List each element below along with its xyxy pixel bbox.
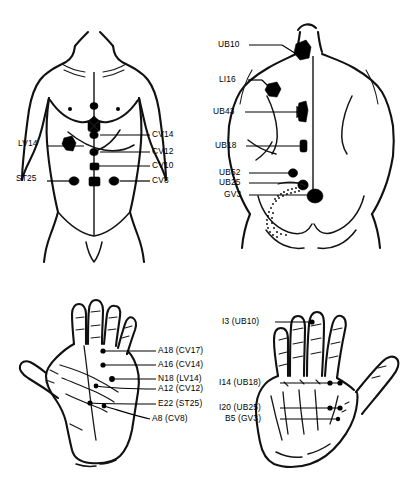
label-a12-cv12: A12 (CV12) bbox=[158, 384, 203, 392]
chart-artwork bbox=[0, 0, 406, 486]
label-ub52: UB52 bbox=[219, 168, 241, 176]
label-i14-ub18: I14 (UB18) bbox=[219, 378, 261, 386]
label-cv12: CV12 bbox=[152, 147, 174, 155]
label-cv8: CV8 bbox=[152, 176, 169, 184]
label-ub43: UB43 bbox=[213, 107, 235, 115]
label-a8-cv8: A8 (CV8) bbox=[152, 414, 188, 422]
label-a16-cv14: A16 (CV14) bbox=[158, 360, 203, 368]
label-st25: ST25 bbox=[16, 174, 37, 182]
label-i20-ub25: I20 (UB25) bbox=[219, 403, 261, 411]
label-cv14: CV14 bbox=[152, 130, 174, 138]
right-hand-figure bbox=[256, 312, 398, 467]
front-torso-figure bbox=[22, 32, 166, 262]
label-ub10: UB10 bbox=[218, 40, 240, 48]
label-ub18: UB18 bbox=[215, 141, 237, 149]
label-i3-ub10: I3 (UB10) bbox=[222, 317, 259, 325]
label-e22-st25: E22 (ST25) bbox=[158, 399, 202, 407]
label-gv3: GV3 bbox=[224, 190, 241, 198]
label-b5-gv3: B5 (GV3) bbox=[225, 414, 261, 422]
label-cv10: CV10 bbox=[152, 161, 174, 169]
acupuncture-chart: LV14 ST25 CV14 CV12 CV10 CV8 UB10 LI16 U… bbox=[0, 0, 406, 486]
label-ub25: UB25 bbox=[219, 178, 241, 186]
left-hand-figure bbox=[20, 300, 156, 466]
label-lv14: LV14 bbox=[18, 139, 38, 147]
back-torso-figure bbox=[228, 24, 394, 248]
label-li16: LI16 bbox=[219, 75, 236, 83]
label-n18-lv14: N18 (LV14) bbox=[158, 374, 202, 382]
label-a18-cv17: A18 (CV17) bbox=[158, 346, 203, 354]
